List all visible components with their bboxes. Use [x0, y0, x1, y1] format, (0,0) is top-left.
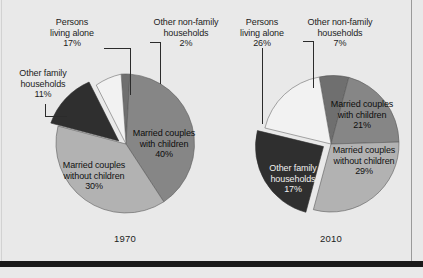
callout-line-1: Other family — [6, 68, 80, 79]
callout-persons-living-alone-1970: Persons living alone 17% — [38, 17, 106, 49]
bottom-margin-strip — [0, 267, 423, 278]
callout-line-2: living alone — [228, 28, 296, 39]
slice-line-2: with children — [320, 110, 404, 121]
chart-figure: Persons living alone 17% Other non-famil… — [0, 0, 423, 278]
callout-line-1: Persons — [228, 17, 296, 28]
slice-label-married-with-children-1970: Married couples with children 40% — [122, 128, 206, 160]
year-label-1970: 1970 — [95, 233, 155, 244]
callout-line-1: Other non-family — [143, 17, 229, 28]
callout-line-2: living alone — [38, 28, 106, 39]
slice-line-3: 21% — [320, 120, 404, 131]
callout-line-3: 17% — [38, 38, 106, 49]
callout-line-1: Other non-family — [297, 17, 383, 28]
year-label-2010: 2010 — [301, 233, 361, 244]
slice-label-other-family-2010: Other family households 17% — [258, 163, 328, 195]
slice-line-1: Married couples — [320, 145, 408, 156]
slice-line-1: Married couples — [50, 160, 138, 171]
callout-other-family-1970: Other family households 11% — [6, 68, 80, 100]
slice-line-1: Married couples — [122, 128, 206, 139]
callout-line-2: households — [143, 28, 229, 39]
slice-line-2: with children — [122, 139, 206, 150]
callout-line-3: 7% — [297, 38, 383, 49]
callout-line-2: households — [6, 79, 80, 90]
slice-line-3: 29% — [320, 166, 408, 177]
callout-persons-living-alone-2010: Persons living alone 26% — [228, 17, 296, 49]
callout-other-non-family-2010: Other non-family households 7% — [297, 17, 383, 49]
callout-line-1: Persons — [38, 17, 106, 28]
slice-line-3: 17% — [258, 184, 328, 195]
callout-line-3: 26% — [228, 38, 296, 49]
slice-line-1: Married couples — [320, 99, 404, 110]
slice-line-2: without children — [50, 171, 138, 182]
slice-line-2: households — [258, 174, 328, 185]
leader-persons-alone-2010 — [262, 48, 263, 124]
slice-line-3: 40% — [122, 149, 206, 160]
slice-line-1: Other family — [258, 163, 328, 174]
slice-label-married-with-children-2010: Married couples with children 21% — [320, 99, 404, 131]
leader-persons-alone-1970 — [130, 48, 131, 95]
left-border-rule — [1, 0, 2, 264]
slice-label-married-without-children-2010: Married couples without children 29% — [320, 145, 408, 177]
callout-line-3: 2% — [143, 38, 229, 49]
right-border-rule — [411, 0, 412, 264]
callout-line-2: households — [297, 28, 383, 39]
callout-line-3: 11% — [6, 89, 80, 100]
callout-other-non-family-1970: Other non-family households 2% — [143, 17, 229, 49]
leader-other-family-1970-horizontal — [45, 116, 67, 117]
slice-label-married-without-children-1970: Married couples without children 30% — [50, 160, 138, 192]
leader-persons-alone-1970-horizontal — [104, 48, 131, 49]
slice-line-3: 30% — [50, 181, 138, 192]
slice-line-2: without children — [320, 156, 408, 167]
